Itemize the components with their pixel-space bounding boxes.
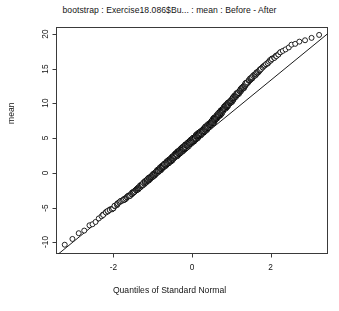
qq-plot-figure: bootstrap : Exercise18.086$Bu... : mean … (0, 0, 339, 311)
y-tick-label: 5 (40, 130, 50, 146)
y-tick-label: 0 (40, 165, 50, 181)
y-tick-label: 10 (40, 95, 50, 111)
x-axis-title: Quantiles of Standard Normal (0, 285, 339, 295)
x-tick-label: 2 (261, 262, 281, 272)
y-tick-label: 15 (40, 61, 50, 77)
y-tick-label: 20 (40, 26, 50, 42)
plot-drawing-area (0, 0, 339, 311)
y-tick-label: -5 (40, 200, 50, 216)
y-axis-title: mean (6, 103, 16, 125)
x-tick-label: -2 (103, 262, 123, 272)
x-tick-label: 0 (182, 262, 202, 272)
y-tick-label: -10 (40, 234, 50, 250)
